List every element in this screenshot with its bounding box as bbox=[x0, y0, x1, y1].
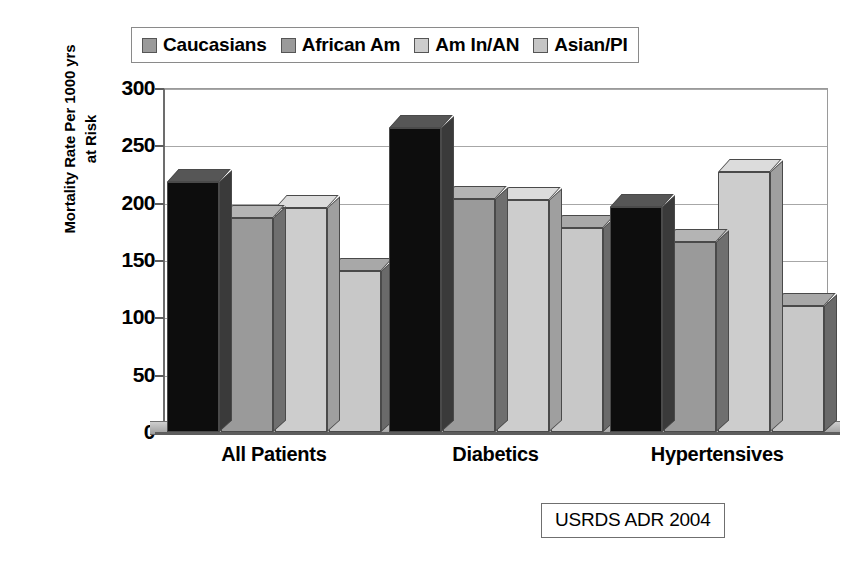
bar-front-face bbox=[167, 182, 219, 432]
y-tick-label-300: 300 bbox=[103, 76, 155, 100]
y-axis-tick-labels: 050100150200250300 bbox=[103, 88, 155, 432]
bar-side-face bbox=[662, 196, 675, 432]
gridline-300 bbox=[165, 89, 827, 90]
x-axis-category-label-0: All Patients bbox=[163, 443, 385, 466]
y-axis-title-line-0: Mortality Rate Per 1000 yrs bbox=[59, 0, 80, 304]
y-tick-mark-200 bbox=[155, 203, 164, 205]
bar-hypertensives-caucasians bbox=[610, 207, 662, 432]
bar-side-face bbox=[495, 188, 508, 432]
x-axis-baseline bbox=[163, 432, 840, 434]
y-axis-title: Mortality Rate Per 1000 yrsat Risk bbox=[59, 0, 101, 304]
legend-label-2: Am In/AN bbox=[435, 34, 519, 56]
x-axis-category-label-1: Diabetics bbox=[385, 443, 607, 466]
y-tick-mark-150 bbox=[155, 260, 164, 262]
x-axis-category-label-2: Hypertensives bbox=[606, 443, 828, 466]
bar-side-face bbox=[273, 206, 286, 432]
bar-side-face bbox=[824, 294, 837, 432]
legend-swatch-icon-0 bbox=[142, 38, 157, 53]
chart-legend: CaucasiansAfrican AmAm In/ANAsian/PI bbox=[131, 27, 639, 63]
y-tick-mark-300 bbox=[155, 88, 164, 90]
y-tick-label-50: 50 bbox=[103, 363, 155, 387]
legend-label-0: Caucasians bbox=[163, 34, 267, 56]
bar-front-face bbox=[610, 207, 662, 432]
y-tick-mark-250 bbox=[155, 145, 164, 147]
legend-item-3[interactable]: Asian/PI bbox=[533, 34, 627, 56]
bar-side-face bbox=[327, 197, 340, 432]
y-tick-label-100: 100 bbox=[103, 305, 155, 329]
bar-side-face bbox=[549, 189, 562, 432]
y-tick-mark-50 bbox=[155, 375, 164, 377]
chart-page: { "chart_data": { "type": "bar", "title"… bbox=[0, 0, 859, 573]
legend-label-3: Asian/PI bbox=[554, 34, 627, 56]
y-tick-mark-0 bbox=[155, 432, 164, 434]
bar-front-face bbox=[389, 128, 441, 432]
legend-swatch-icon-3 bbox=[533, 38, 548, 53]
bar-side-face bbox=[716, 230, 729, 432]
bar-top-face bbox=[389, 115, 453, 128]
y-tick-label-200: 200 bbox=[103, 191, 155, 215]
legend-swatch-icon-2 bbox=[414, 38, 429, 53]
legend-item-0[interactable]: Caucasians bbox=[142, 34, 267, 56]
y-tick-label-150: 150 bbox=[103, 248, 155, 272]
bar-side-face bbox=[219, 170, 232, 432]
gridline-250 bbox=[165, 146, 827, 147]
bar-all-patients-caucasians bbox=[167, 182, 219, 432]
y-tick-mark-100 bbox=[155, 317, 164, 319]
bar-side-face bbox=[770, 160, 783, 432]
bar-diabetics-caucasians bbox=[389, 128, 441, 432]
legend-swatch-icon-1 bbox=[281, 38, 296, 53]
bar-side-face bbox=[441, 116, 454, 432]
y-tick-label-250: 250 bbox=[103, 133, 155, 157]
y-tick-label-0: 0 bbox=[103, 420, 155, 444]
y-axis-title-line-1: at Risk bbox=[80, 0, 101, 304]
legend-item-2[interactable]: Am In/AN bbox=[414, 34, 519, 56]
source-note: USRDS ADR 2004 bbox=[541, 503, 725, 538]
legend-label-1: African Am bbox=[302, 34, 401, 56]
legend-item-1[interactable]: African Am bbox=[281, 34, 401, 56]
